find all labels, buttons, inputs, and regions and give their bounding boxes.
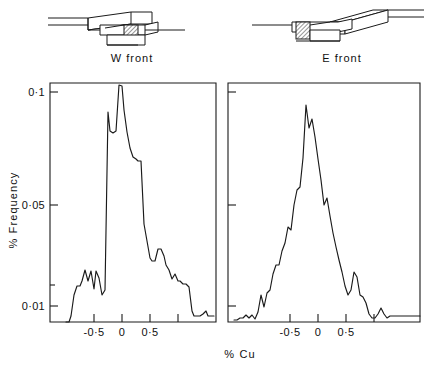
x-tick-label-0-5-west: 0·5 [142,326,159,338]
figure-root: W front E front % Frequency % Cu [0,0,436,365]
x-tick-label-neg0-5-east: -0·5 [280,326,301,338]
x-axis-title: % Cu [224,348,255,360]
x-tick-label-0-west: 0 [119,326,125,338]
figure-background [0,0,436,365]
y-tick-label-0-1: 0·1 [28,86,45,98]
two-panel-frequency-figure: W front E front % Frequency % Cu [0,0,436,365]
x-tick-label-0-5-east: 0·5 [338,326,355,338]
y-tick-label-0-05: 0·05 [22,199,45,211]
x-tick-label-0-east: 0 [315,326,321,338]
panel-caption-east: E front [322,52,361,64]
y-axis-title: % Frequency [7,172,19,249]
panel-caption-west: W front [111,52,153,64]
x-tick-label-neg0-5-west: -0·5 [84,326,105,338]
ore-lens-hatched-e [296,22,310,39]
y-tick-label-0-01: 0·01 [22,300,45,312]
lower-block-face-e [310,30,340,41]
lower-block-face-w [107,35,145,45]
